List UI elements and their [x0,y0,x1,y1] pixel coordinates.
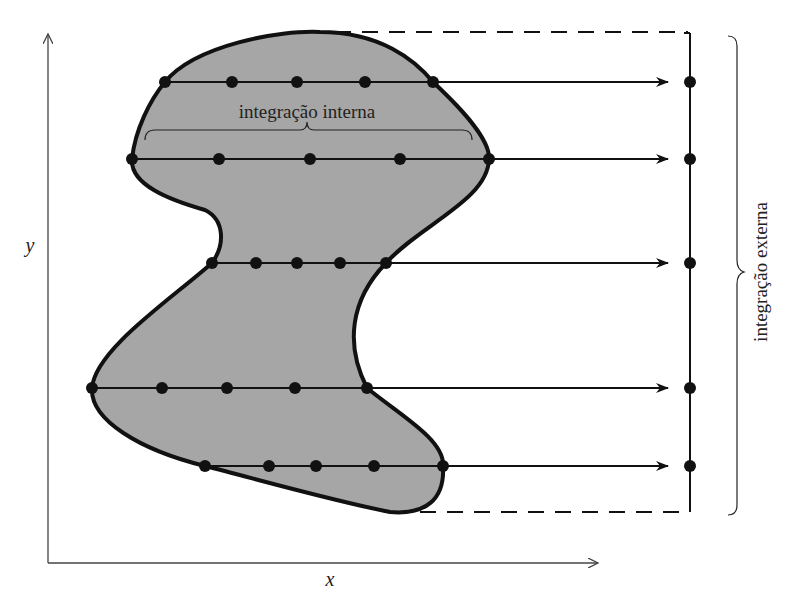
sample-point [310,460,322,472]
sample-point [304,153,316,165]
sample-point [361,382,373,394]
integration-diagram: integração interna integração externa y … [0,0,796,611]
sample-point [291,257,303,269]
sample-point [221,382,233,394]
outer-sample-point [684,257,696,269]
sample-point [359,76,371,88]
sample-point [213,153,225,165]
sample-point [263,460,275,472]
sample-point [86,382,98,394]
sample-point [226,76,238,88]
sample-point [394,153,406,165]
outer-sample-point [684,76,696,88]
sample-point [437,460,449,472]
sample-point [156,382,168,394]
sample-point [206,257,218,269]
sample-point [199,460,211,472]
outer-sample-point [684,382,696,394]
outer-sample-point [684,460,696,472]
inner-integration-label: integração interna [239,101,376,122]
sample-point [250,257,262,269]
x-axis-label: x [325,568,335,590]
sample-point [483,153,495,165]
y-axis-label: y [24,234,35,257]
sample-point [427,76,439,88]
sample-point [368,460,380,472]
sample-point [291,76,303,88]
sample-point [289,382,301,394]
outer-brace [728,36,744,515]
sample-point [380,257,392,269]
sample-point [334,257,346,269]
outer-sample-point [684,153,696,165]
outer-integration-label: integração externa [750,202,771,342]
sample-point [159,76,171,88]
sample-point [126,153,138,165]
